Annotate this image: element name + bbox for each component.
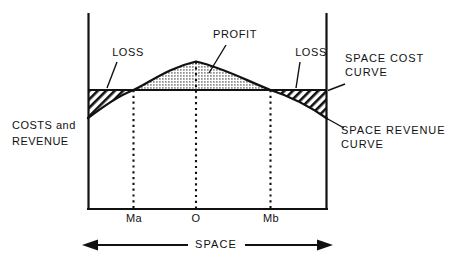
space-cost-curve-label-line1: SPACE COST	[345, 52, 424, 65]
space-cost-curve-label-line2: CURVE	[345, 66, 388, 79]
x-tick-label-mb: Mb	[263, 212, 279, 225]
space-revenue-curve-label-line1: SPACE REVENUE	[341, 124, 445, 137]
loss-label-right: LOSS	[295, 46, 327, 59]
space-cost-revenue-diagram: LOSS LOSS PROFIT SPACE COST CURVE SPACE …	[0, 0, 455, 266]
x-tick-label-o: O	[192, 212, 201, 225]
loss-region-right	[271, 90, 328, 119]
loss-label-left: LOSS	[112, 46, 144, 59]
space-revenue-curve-label-line2: CURVE	[341, 138, 384, 151]
y-axis-label-line1: COSTS and	[12, 119, 76, 132]
x-tick-label-ma: Ma	[126, 212, 142, 225]
leader-line-loss-left	[107, 62, 117, 88]
leader-line-space-cost-curve	[328, 84, 345, 91]
profit-region	[134, 62, 271, 91]
x-axis-label: SPACE	[195, 238, 237, 251]
leader-line-loss-right	[296, 62, 300, 88]
profit-label: PROFIT	[213, 28, 257, 41]
y-axis-label-line2: REVENUE	[12, 135, 69, 148]
